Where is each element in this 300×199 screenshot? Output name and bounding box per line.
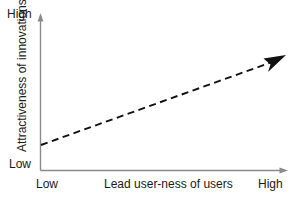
x-axis-arrowhead-icon: [280, 168, 289, 174]
x-axis-low-tick-label: Low: [36, 177, 58, 191]
chart-figure: High Low Low High Lead user-ness of user…: [0, 0, 300, 199]
y-axis-title: Attractiveness of innovations: [15, 22, 29, 152]
y-axis-low-tick-label: Low: [9, 157, 31, 171]
x-axis-title: Lead user-ness of users: [104, 177, 233, 191]
chart-plot-area: [0, 0, 300, 199]
trend-line: [41, 61, 275, 145]
x-axis-high-tick-label: High: [258, 177, 283, 191]
trend-arrowhead-icon: [264, 55, 287, 72]
y-axis-arrowhead-icon: [38, 13, 44, 22]
